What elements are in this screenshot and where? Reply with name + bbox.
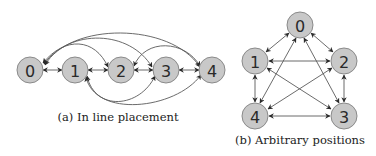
node-b-3: 3 bbox=[331, 103, 357, 129]
node-label: 4 bbox=[250, 108, 260, 127]
figure-b-arbitrary-positions: 0 1 2 3 4 (b) Arbitrary positions bbox=[235, 12, 365, 147]
figure-b-edges bbox=[255, 33, 344, 116]
edge-b-0-3 bbox=[304, 38, 339, 103]
node-label: 0 bbox=[25, 62, 35, 81]
figure-canvas: 0 1 2 3 4 (a) In line placement 0 1 2 3 … bbox=[0, 0, 376, 156]
node-b-1: 1 bbox=[242, 48, 268, 74]
node-label: 2 bbox=[339, 53, 349, 72]
node-label: 1 bbox=[250, 53, 260, 72]
caption-b: (b) Arbitrary positions bbox=[235, 133, 365, 147]
figure-a-in-line-placement: 0 1 2 3 4 (a) In line placement bbox=[17, 33, 225, 124]
node-b-0: 0 bbox=[287, 12, 313, 38]
edge-b-0-2 bbox=[311, 33, 333, 52]
node-label: 1 bbox=[70, 62, 80, 81]
edge-b-2-4 bbox=[268, 68, 332, 109]
node-label: 2 bbox=[116, 62, 126, 81]
edge-a-1-4 bbox=[86, 75, 201, 105]
node-a-3: 3 bbox=[153, 57, 179, 83]
node-label: 0 bbox=[295, 17, 305, 36]
node-a-1: 1 bbox=[62, 57, 88, 83]
caption-a: (a) In line placement bbox=[57, 110, 179, 124]
node-a-2: 2 bbox=[108, 57, 134, 83]
node-b-2: 2 bbox=[331, 48, 357, 74]
node-a-0: 0 bbox=[17, 57, 43, 83]
node-label: 3 bbox=[339, 108, 349, 127]
node-label: 4 bbox=[207, 62, 217, 81]
node-b-4: 4 bbox=[242, 103, 268, 129]
edge-b-0-4 bbox=[260, 38, 296, 103]
node-label: 3 bbox=[161, 62, 171, 81]
node-a-4: 4 bbox=[199, 57, 225, 83]
figure-b-nodes: 0 1 2 3 4 bbox=[242, 12, 357, 129]
edge-b-0-1 bbox=[266, 33, 289, 52]
edge-b-1-3 bbox=[267, 68, 331, 109]
